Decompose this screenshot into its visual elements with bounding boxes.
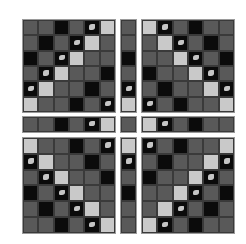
grid-cell xyxy=(84,66,99,81)
grid-cell xyxy=(157,138,172,154)
block-middle-right xyxy=(142,117,234,132)
grid-cell xyxy=(203,185,218,201)
grid-cell xyxy=(142,201,157,217)
grid-cell xyxy=(188,97,203,112)
grid-cell xyxy=(142,154,157,170)
grid-cell xyxy=(84,97,99,112)
grid-cell xyxy=(203,20,218,35)
grid-cell xyxy=(173,170,188,186)
grid-cell xyxy=(142,51,157,66)
grid-cell xyxy=(157,20,172,35)
grid-cell xyxy=(100,35,115,50)
block-middle-middle xyxy=(121,117,136,132)
grid-cell xyxy=(188,51,203,66)
block-bottom-middle xyxy=(121,138,136,233)
grid-cell xyxy=(173,66,188,81)
grid-cell xyxy=(173,20,188,35)
grid-cell xyxy=(54,138,69,154)
grid-cell xyxy=(121,201,136,217)
grid-cell xyxy=(121,217,136,233)
grid-cell xyxy=(157,217,172,233)
grid-cell xyxy=(121,35,136,50)
grid-cell xyxy=(38,185,53,201)
grid-cell xyxy=(69,81,84,96)
grid-cell xyxy=(121,117,136,132)
grid-cell xyxy=(69,35,84,50)
grid-cell xyxy=(121,97,136,112)
grid-cell xyxy=(203,217,218,233)
grid-cell xyxy=(84,185,99,201)
grid-cell xyxy=(219,35,234,50)
grid-cell xyxy=(203,117,218,132)
grid-cell xyxy=(54,185,69,201)
grid-cell xyxy=(54,201,69,217)
grid-cell xyxy=(54,117,69,132)
grid-cell xyxy=(100,81,115,96)
grid-cell xyxy=(173,201,188,217)
grid-cell xyxy=(23,170,38,186)
grid-cell xyxy=(142,185,157,201)
grid-cell xyxy=(157,97,172,112)
grid-cell xyxy=(69,138,84,154)
grid-cell xyxy=(219,185,234,201)
grid-cell xyxy=(38,66,53,81)
grid-cell xyxy=(203,66,218,81)
grid-cell xyxy=(54,217,69,233)
grid-cell xyxy=(84,201,99,217)
grid-cell xyxy=(157,66,172,81)
grid-cell xyxy=(69,185,84,201)
grid-cell xyxy=(173,81,188,96)
grid-cell xyxy=(219,97,234,112)
grid-cell xyxy=(38,97,53,112)
grid-cell xyxy=(84,81,99,96)
grid-cell xyxy=(84,217,99,233)
grid-cell xyxy=(100,138,115,154)
grid-cell xyxy=(84,170,99,186)
grid-cell xyxy=(38,81,53,96)
grid-cell xyxy=(142,97,157,112)
grid-cell xyxy=(219,20,234,35)
grid-cell xyxy=(142,66,157,81)
grid-cell xyxy=(23,81,38,96)
grid-cell xyxy=(54,35,69,50)
grid-cell xyxy=(69,97,84,112)
grid-cell xyxy=(219,154,234,170)
grid-cell xyxy=(188,35,203,50)
grid-cell xyxy=(188,20,203,35)
grid-cell xyxy=(38,154,53,170)
grid-cell xyxy=(23,97,38,112)
grid-cell xyxy=(203,35,218,50)
grid-cell xyxy=(54,66,69,81)
block-top-left xyxy=(23,20,115,112)
grid-cell xyxy=(142,117,157,132)
grid-cell xyxy=(69,117,84,132)
grid-cell xyxy=(54,97,69,112)
grid-cell xyxy=(100,51,115,66)
grid-cell xyxy=(203,81,218,96)
grid-cell xyxy=(23,185,38,201)
grid-cell xyxy=(23,51,38,66)
grid-cell xyxy=(173,138,188,154)
grid-cell xyxy=(188,217,203,233)
grid-cell xyxy=(157,185,172,201)
grid-cell xyxy=(173,35,188,50)
grid-cell xyxy=(219,51,234,66)
grid-cell xyxy=(121,20,136,35)
block-bottom-left xyxy=(23,138,115,233)
grid-cell xyxy=(84,117,99,132)
grid-cell xyxy=(121,51,136,66)
grid-cell xyxy=(142,35,157,50)
grid-cell xyxy=(23,154,38,170)
grid-cell xyxy=(100,117,115,132)
grid-cell xyxy=(121,81,136,96)
grid-cell xyxy=(100,97,115,112)
grid-cell xyxy=(100,154,115,170)
grid-cell xyxy=(142,20,157,35)
grid-cell xyxy=(219,217,234,233)
grid-cell xyxy=(100,170,115,186)
grid-cell xyxy=(84,20,99,35)
grid-cell xyxy=(188,81,203,96)
block-top-right xyxy=(142,20,234,112)
grid-cell xyxy=(54,20,69,35)
grid-cell xyxy=(23,20,38,35)
